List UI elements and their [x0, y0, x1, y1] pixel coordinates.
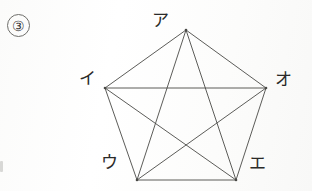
- vertex-point-o: [265, 87, 268, 90]
- edge-a-u: [137, 30, 186, 180]
- vertex-point-e: [235, 179, 238, 182]
- edge-a-e: [186, 30, 236, 180]
- edge-a-i: [105, 30, 186, 88]
- vertex-label-o: オ: [275, 71, 292, 88]
- vertex-point-a: [185, 29, 188, 32]
- edge-o-a: [186, 30, 266, 88]
- vertex-point-u: [136, 179, 139, 182]
- vertex-point-i: [104, 87, 107, 90]
- vertex-label-a: ア: [152, 12, 169, 29]
- edge-u-o: [137, 88, 266, 180]
- edges-group: [105, 30, 266, 180]
- vertex-label-i: イ: [79, 70, 96, 87]
- figure-page: ③ アイウエオ: [0, 0, 312, 191]
- vertex-label-u: ウ: [101, 154, 118, 171]
- edge-i-e: [105, 88, 236, 180]
- vertex-label-e: エ: [249, 155, 266, 172]
